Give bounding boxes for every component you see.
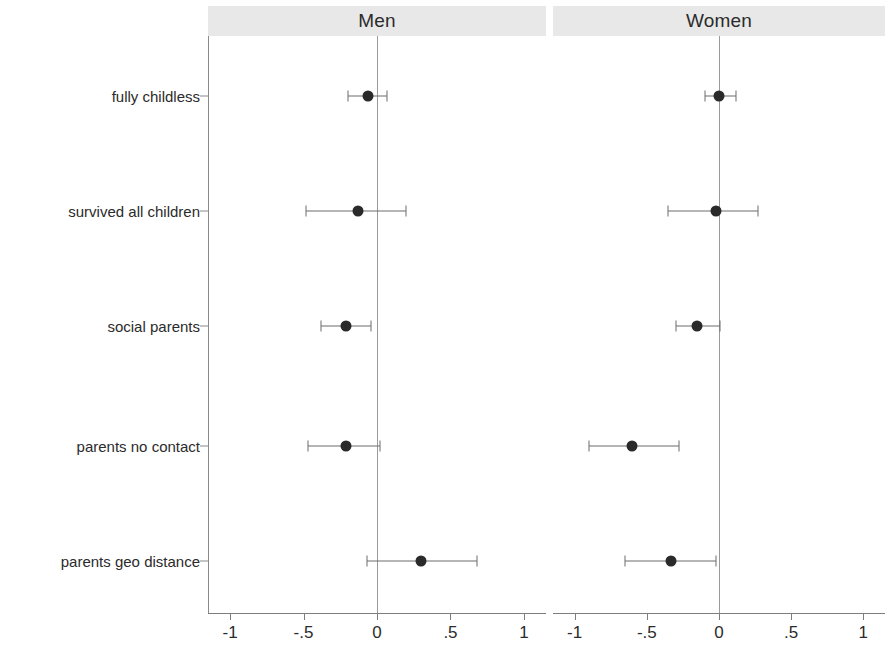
x-axis-tick-label: -1 bbox=[222, 623, 237, 643]
x-axis-tick bbox=[647, 613, 648, 620]
y-axis-label-fully-childless: fully childless bbox=[112, 88, 200, 105]
y-axis-tick bbox=[200, 561, 208, 562]
y-axis-label-parents-geo-distance: parents geo distance bbox=[61, 553, 200, 570]
plot-area-men bbox=[208, 36, 546, 613]
confidence-interval-cap bbox=[387, 91, 388, 102]
x-axis-tick-label: .5 bbox=[443, 623, 457, 643]
confidence-interval-cap bbox=[347, 91, 348, 102]
estimate-point bbox=[692, 321, 703, 332]
panel-title-women: Women bbox=[553, 6, 885, 36]
x-axis-tick bbox=[450, 613, 451, 620]
confidence-interval-cap bbox=[366, 556, 367, 567]
x-axis-tick-label: -1 bbox=[567, 623, 582, 643]
x-axis-women: -1-.50.51 bbox=[553, 613, 885, 614]
y-axis-tick bbox=[200, 96, 208, 97]
x-axis-tick bbox=[230, 613, 231, 620]
plot-panel-women: -1-.50.51 bbox=[553, 36, 885, 613]
x-axis-tick bbox=[377, 613, 378, 620]
x-axis-tick bbox=[524, 613, 525, 620]
x-axis-tick bbox=[863, 613, 864, 620]
confidence-interval-cap bbox=[668, 206, 669, 217]
plot-area-women bbox=[553, 36, 885, 613]
y-axis-tick bbox=[200, 326, 208, 327]
confidence-interval-cap bbox=[736, 91, 737, 102]
estimate-point bbox=[714, 91, 725, 102]
x-axis-tick-label: 0 bbox=[714, 623, 723, 643]
x-axis-tick-label: 1 bbox=[859, 623, 868, 643]
x-axis-tick-label: -.5 bbox=[294, 623, 314, 643]
confidence-interval-cap bbox=[716, 556, 717, 567]
x-axis-tick-label: 1 bbox=[519, 623, 528, 643]
x-axis-tick bbox=[575, 613, 576, 620]
confidence-interval-cap bbox=[757, 206, 758, 217]
estimate-point bbox=[627, 441, 638, 452]
confidence-interval-cap bbox=[589, 441, 590, 452]
confidence-interval-cap bbox=[371, 321, 372, 332]
estimate-point bbox=[341, 441, 352, 452]
confidence-interval-cap bbox=[704, 91, 705, 102]
confidence-interval-cap bbox=[306, 206, 307, 217]
estimate-point bbox=[666, 556, 677, 567]
confidence-interval-cap bbox=[720, 321, 721, 332]
y-axis-label-survived-all-children: survived all children bbox=[68, 203, 200, 220]
plot-panel-men: -1-.50.51 bbox=[208, 36, 546, 613]
y-axis-tick bbox=[200, 446, 208, 447]
confidence-interval-cap bbox=[476, 556, 477, 567]
panel-title-men: Men bbox=[208, 6, 546, 36]
confidence-interval-cap bbox=[307, 441, 308, 452]
estimate-point bbox=[341, 321, 352, 332]
estimate-point bbox=[352, 206, 363, 217]
x-axis-tick bbox=[304, 613, 305, 620]
x-axis-tick-label: 0 bbox=[372, 623, 381, 643]
x-axis-men: -1-.50.51 bbox=[208, 613, 546, 614]
x-axis-tick bbox=[791, 613, 792, 620]
confidence-interval-cap bbox=[406, 206, 407, 217]
x-axis-tick-label: .5 bbox=[784, 623, 798, 643]
x-axis-tick-label: -.5 bbox=[637, 623, 657, 643]
confidence-interval-cap bbox=[321, 321, 322, 332]
confidence-interval-cap bbox=[678, 441, 679, 452]
zero-reference-line-men bbox=[377, 36, 378, 613]
x-axis-tick bbox=[719, 613, 720, 620]
y-axis-tick bbox=[200, 211, 208, 212]
estimate-point bbox=[416, 556, 427, 567]
forest-plot-figure: Men Women fully childlesssurvived all ch… bbox=[0, 0, 888, 656]
y-axis-label-social-parents: social parents bbox=[107, 318, 200, 335]
confidence-interval-cap bbox=[675, 321, 676, 332]
y-axis-label-parents-no-contact: parents no contact bbox=[77, 438, 200, 455]
estimate-point bbox=[711, 206, 722, 217]
confidence-interval-cap bbox=[625, 556, 626, 567]
confidence-interval-cap bbox=[379, 441, 380, 452]
estimate-point bbox=[363, 91, 374, 102]
